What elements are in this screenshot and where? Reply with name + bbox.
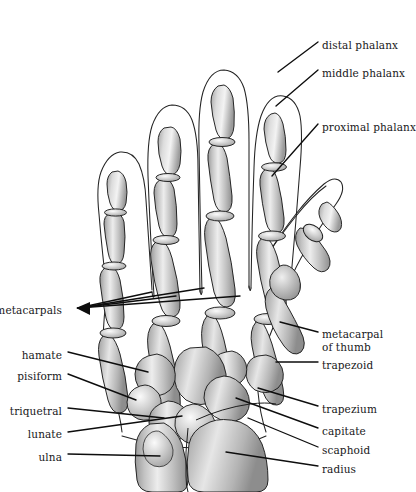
thumb-distal-phalanx — [319, 202, 342, 232]
thumb-metacarpal-head — [270, 265, 301, 300]
trapezium-bone — [246, 355, 283, 393]
joint-pip-1 — [102, 262, 126, 270]
proximal-phalanx-2 — [151, 241, 181, 317]
distal-phalanx-3 — [211, 85, 234, 139]
joint-mcp-3 — [205, 307, 235, 319]
label-metacarpal-of-thumb-line1: metacarpal — [322, 328, 383, 341]
label-ulna: ulna — [38, 451, 62, 464]
distal-phalanx-1 — [107, 171, 127, 211]
middle-phalanx-4 — [260, 169, 284, 233]
bones-group — [99, 85, 342, 492]
label-triquetral: triquetral — [10, 405, 62, 418]
middle-phalanx-2 — [154, 179, 177, 237]
leader-middle-phalanx — [276, 70, 318, 106]
label-trapezium: trapezium — [322, 403, 377, 416]
joint-dip-2 — [156, 174, 180, 182]
label-metacarpal-of-thumb-line2: of thumb — [322, 341, 371, 354]
joint-pip-4 — [259, 231, 286, 241]
label-capitate: capitate — [322, 425, 366, 438]
label-middle-phalanx: middle phalanx — [322, 67, 405, 80]
joint-mcp-2 — [152, 316, 180, 327]
leader-distal-phalanx — [278, 42, 318, 72]
label-distal-phalanx: distal phalanx — [322, 39, 398, 52]
leader-metacarpals-arrow — [76, 302, 90, 315]
middle-phalanx-3 — [208, 144, 232, 212]
metacarpal-1 — [99, 335, 129, 413]
radius-bone — [187, 420, 268, 492]
joint-dip-3 — [209, 138, 235, 147]
label-radius: radius — [322, 463, 356, 476]
distal-phalanx-4 — [264, 113, 286, 163]
middle-phalanx-1 — [104, 213, 125, 264]
joint-pip-3 — [206, 211, 234, 221]
label-metacarpals: metacarpals — [0, 304, 62, 317]
distal-phalanx-2 — [158, 127, 181, 175]
label-trapezoid: trapezoid — [322, 359, 373, 372]
label-scaphoid: scaphoid — [322, 444, 370, 457]
label-lunate: lunate — [28, 428, 62, 441]
label-hamate: hamate — [22, 349, 62, 362]
joint-dip-1 — [105, 209, 127, 216]
finger-1-bones — [99, 171, 129, 413]
joint-pip-2 — [153, 236, 179, 245]
joint-mcp-1 — [100, 328, 126, 338]
label-pisiform: pisiform — [17, 370, 62, 383]
label-proximal-phalanx: proximal phalanx — [322, 121, 416, 134]
proximal-phalanx-3 — [205, 217, 236, 307]
